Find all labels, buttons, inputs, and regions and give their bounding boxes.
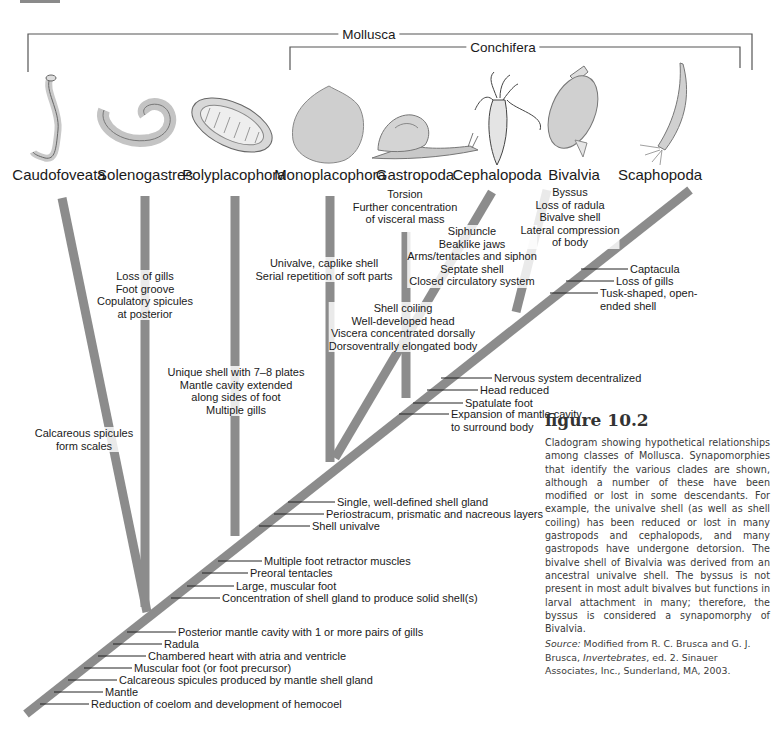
taxon-gastropoda: Gastropoda [376, 167, 454, 183]
worm-solenogastres-illustration [103, 104, 170, 141]
worm-caudofoveata-illustration [33, 75, 58, 158]
trait-single-shell-gland: Single, well-defined shell gland [337, 496, 488, 509]
trait-muscular-foot-precursor: Muscular foot (or foot precursor) [134, 662, 291, 675]
branch-caudofoveata [62, 198, 147, 612]
caption-body: Cladogram showing hypothetical relations… [545, 436, 770, 635]
trait-tusk-shaped-shell: Tusk-shaped, open-ended shell [600, 287, 697, 312]
trait-captacula: Captacula [630, 263, 680, 276]
chiton-illustration [184, 87, 281, 163]
tusk-shell-illustration [640, 63, 687, 165]
trait-loss-of-gills: Loss of gills [616, 275, 673, 288]
traits-gastropoda-cephalopoda: Shell coilingWell-developed head Viscera… [329, 302, 478, 352]
trait-coelom-reduction: Reduction of coelom and development of h… [91, 698, 342, 711]
figure-caption: figure 10.2 Cladogram showing hypothetic… [545, 410, 770, 677]
taxon-polyplacophora: Polyplacophora [182, 167, 285, 183]
taxon-caudofoveata: Caudofoveata [12, 167, 105, 183]
trait-calcareous-spicules: Calcareous spicules produced by mantle s… [119, 674, 373, 687]
cap-shell-illustration [292, 86, 363, 163]
trait-mantle: Mantle [105, 686, 138, 699]
figure-title: figure 10.2 [545, 410, 770, 430]
trait-radula: Radula [164, 638, 199, 651]
trait-shell-univalve: Shell univalve [312, 520, 380, 533]
trait-preoral-tentacles: Preoral tentacles [250, 567, 333, 580]
trait-nervous-system: Nervous system decentralized [494, 372, 641, 385]
trait-shell-gland-concentration: Concentration of shell gland to produce … [222, 592, 478, 605]
trait-chambered-heart: Chambered heart with atria and ventricle [148, 650, 346, 663]
snail-illustration [372, 115, 478, 159]
taxon-solenogastres: Solenogastres [97, 167, 193, 183]
squid-illustration [475, 72, 541, 165]
caption-source: Source: Modified from R. C. Brusca and G… [545, 637, 770, 677]
trait-head-reduced: Head reduced [480, 384, 549, 397]
traits-polyplacophora: Unique shell with 7–8 platesMantle cavit… [168, 366, 305, 416]
trait-muscular-foot: Large, muscular foot [236, 580, 336, 593]
mollusca-clade-label: Mollusca [338, 27, 399, 42]
clam-illustration [538, 66, 607, 157]
taxon-monoplacophora: Monoplacophora [274, 167, 386, 183]
conchifera-clade-label: Conchifera [466, 40, 539, 55]
traits-gastropoda: TorsionFurther concentration of visceral… [353, 188, 458, 226]
taxon-bivalvia: Bivalvia [548, 167, 600, 183]
traits-bivalvia: ByssusLoss of radula Bivalve shellLatera… [520, 186, 619, 249]
traits-solenogastres: Loss of gillsFoot groove Copulatory spic… [97, 270, 193, 320]
trait-posterior-mantle-cavity: Posterior mantle cavity with 1 or more p… [178, 626, 423, 639]
taxon-scaphopoda: Scaphopoda [618, 167, 702, 183]
traits-monoplacophora: Univalve, caplike shellSerial repetition… [256, 257, 393, 282]
trait-foot-retractor-muscles: Multiple foot retractor muscles [264, 555, 411, 568]
traits-caudofoveata: Calcareous spiculesform scales [35, 427, 133, 452]
traits-cephalopoda: SiphuncleBeaklike jaws Arms/tentacles an… [407, 225, 537, 288]
taxon-cephalopoda: Cephalopoda [452, 167, 541, 183]
trait-periostracum: Periostracum, prismatic and nacreous lay… [326, 508, 543, 521]
